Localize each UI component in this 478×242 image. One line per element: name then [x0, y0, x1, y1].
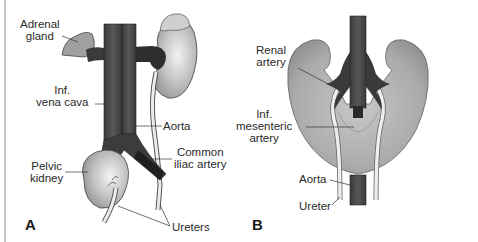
label-adrenal-line1: Adrenal: [20, 18, 60, 30]
label-ivc-line2: vena cava: [36, 96, 88, 108]
right-renal-artery: [132, 46, 166, 70]
label-renal-artery: Renal artery: [256, 44, 286, 68]
label-inf-vena-cava: Inf. vena cava: [36, 84, 88, 108]
label-pelvic-line2: kidney: [30, 172, 63, 184]
inferior-mesenteric-artery: [353, 106, 363, 118]
label-iliac-line2: iliac artery: [174, 158, 226, 170]
aorta-a: [122, 24, 136, 134]
label-aorta-b: Aorta: [299, 173, 327, 185]
panel-letter-a: A: [25, 216, 36, 233]
label-ima-line2: mesenteric: [236, 120, 292, 132]
label-adrenal-line2: gland: [20, 30, 60, 42]
label-ureter-b: Ureter: [299, 200, 331, 212]
label-ureters: Ureters: [172, 221, 210, 233]
label-common-iliac-artery: Common iliac artery: [174, 146, 226, 170]
left-renal-vein: [86, 47, 104, 62]
label-ima-line3: artery: [236, 132, 292, 144]
label-iliac-line1: Common: [174, 146, 226, 158]
inferior-vena-cava: [104, 24, 122, 142]
label-pelvic-kidney: Pelvic kidney: [30, 160, 63, 184]
label-aorta-a: Aorta: [163, 120, 191, 132]
label-inf-mesenteric-artery: Inf. mesenteric artery: [236, 108, 292, 144]
label-renal-line1: Renal: [256, 44, 286, 56]
label-adrenal-gland: Adrenal gland: [20, 18, 60, 42]
label-renal-line2: artery: [256, 56, 286, 68]
adrenal-cap-shape: [160, 14, 190, 31]
pelvic-kidney-shape: [83, 150, 129, 208]
aorta-b-upper: [350, 16, 366, 108]
figure-canvas: Adrenal gland Inf. vena cava Aorta Pelvi…: [0, 0, 478, 242]
label-ivc-line1: Inf.: [36, 84, 88, 96]
label-ima-line1: Inf.: [236, 108, 292, 120]
label-pelvic-line1: Pelvic: [30, 160, 63, 172]
aorta-b-lower: [350, 175, 366, 205]
panel-letter-b: B: [252, 216, 263, 233]
